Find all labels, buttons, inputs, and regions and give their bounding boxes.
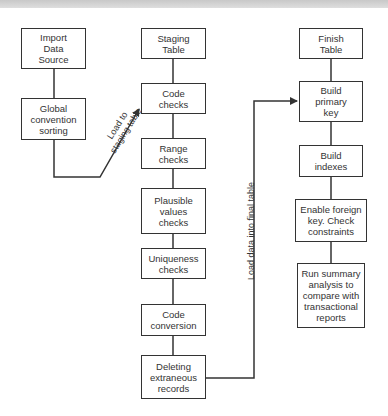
step-range-checks: Range checks: [141, 138, 206, 169]
step-build-indexes: Build indexes: [299, 145, 363, 177]
step-plausible-values-checks: Plausible values checks: [141, 188, 206, 234]
step-code-checks: Code checks: [141, 83, 206, 114]
step-run-summary-analysis: Run summary analysis to compare with tra…: [297, 263, 365, 328]
step-deleting-extraneous-records: Deleting extraneous records: [141, 355, 206, 399]
step-finish-table: Finish Table: [299, 28, 363, 59]
step-global-convention-sorting: Global convention sorting: [21, 98, 86, 140]
step-uniqueness-checks: Uniqueness checks: [141, 248, 206, 279]
step-enable-foreign-key: Enable foreign key. Check constraints: [295, 199, 367, 242]
step-staging-table: Staging Table: [141, 28, 206, 59]
step-import-data-source: Import Data Source: [21, 28, 86, 69]
step-build-primary-key: Build primary key: [299, 81, 363, 122]
step-code-conversion: Code conversion: [141, 304, 206, 336]
edge-label-load-into-final: Load data into final table: [246, 176, 256, 286]
